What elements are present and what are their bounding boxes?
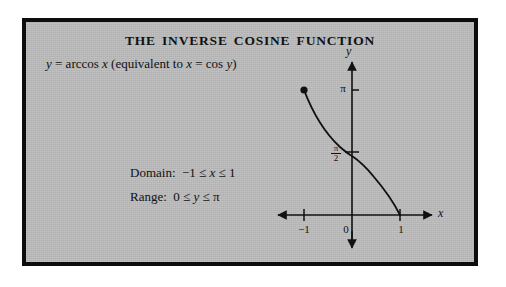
function-equation: y = arccos x (equivalent to x = cos y): [46, 56, 237, 72]
y-tick-label-pi: π: [336, 82, 350, 94]
range-suffix: ≤ π: [199, 189, 219, 204]
equation-open: (equivalent to: [108, 56, 186, 71]
range-prefix: 0 ≤: [173, 189, 193, 204]
pi-over-2-numerator: π: [329, 144, 343, 153]
plot-svg: [262, 48, 458, 262]
figure-panel: THE INVERSE COSINE FUNCTION y = arccos x…: [26, 22, 474, 262]
x-axis-label: x: [438, 206, 443, 221]
x-tick-label-neg-1: −1: [296, 223, 312, 235]
range-statement: Range: 0 ≤ y ≤ π: [130, 189, 219, 205]
range-label: Range:: [130, 189, 167, 204]
x-tick-label-0: 0: [338, 223, 354, 235]
arccos-plot: y x π π 2 −1 0 1: [262, 48, 458, 262]
pi-over-2-denominator: 2: [329, 154, 343, 163]
equation-close: ): [232, 56, 236, 71]
equation-eq2: = cos: [192, 56, 226, 71]
y-axis-label: y: [346, 44, 351, 59]
equation-eq1: = arccos: [52, 56, 102, 71]
figure-frame: THE INVERSE COSINE FUNCTION y = arccos x…: [22, 18, 478, 266]
domain-suffix: ≤ 1: [215, 165, 235, 180]
y-tick-label-pi-over-2: π 2: [329, 144, 343, 163]
x-tick-label-1: 1: [393, 223, 409, 235]
domain-prefix: −1 ≤: [182, 165, 209, 180]
figure-title: THE INVERSE COSINE FUNCTION: [26, 33, 474, 49]
domain-label: Domain:: [130, 165, 176, 180]
domain-statement: Domain: −1 ≤ x ≤ 1: [130, 165, 235, 181]
curve-endpoint-dot: [300, 86, 307, 93]
